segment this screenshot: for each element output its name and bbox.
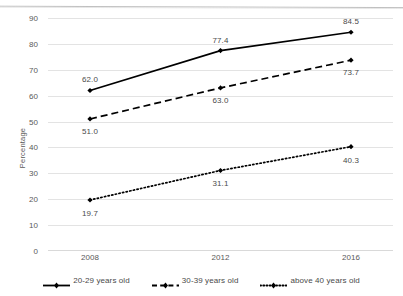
y-axis-tick-labels: 90 80 70 60 50 40 30 20 10 0 xyxy=(0,18,44,251)
legend-label: 20-29 years old xyxy=(73,276,130,285)
plot-area: 62.077.484.551.063.073.719.731.140.3 xyxy=(48,18,393,251)
x-tick-label: 2008 xyxy=(81,253,99,262)
y-tick-label: 50 xyxy=(29,117,38,126)
data-point-marker[interactable] xyxy=(218,85,223,90)
data-label: 31.1 xyxy=(213,179,229,188)
data-label: 84.5 xyxy=(343,17,359,26)
y-tick-label: 0 xyxy=(34,247,38,256)
series-line-3 xyxy=(90,147,351,200)
y-tick-label: 20 xyxy=(29,195,38,204)
legend-item-30-39[interactable]: 30-39 years old xyxy=(152,276,239,285)
legend-label: above 40 years old xyxy=(290,276,359,285)
data-point-marker[interactable] xyxy=(87,88,92,93)
y-tick-label: 10 xyxy=(29,221,38,230)
data-label: 19.7 xyxy=(82,208,98,217)
scan-artifact-line xyxy=(0,5,403,7)
legend-key-dashed-icon xyxy=(152,276,179,285)
data-label: 51.0 xyxy=(82,126,98,135)
data-point-marker[interactable] xyxy=(348,30,353,35)
data-point-marker[interactable] xyxy=(87,197,92,202)
legend-item-above-40[interactable]: above 40 years old xyxy=(260,276,359,285)
data-label: 77.4 xyxy=(213,35,229,44)
data-label: 63.0 xyxy=(213,95,229,104)
legend-label: 30-39 years old xyxy=(182,276,239,285)
data-point-marker[interactable] xyxy=(87,116,92,121)
data-label: 40.3 xyxy=(343,155,359,164)
scan-bleed-text xyxy=(122,0,124,6)
line-chart: Percentage 90 80 70 60 50 40 30 20 10 0 xyxy=(0,0,403,296)
data-label: 73.7 xyxy=(343,68,359,77)
legend-key-solid-icon xyxy=(43,276,70,285)
x-tick-label: 2012 xyxy=(212,253,230,262)
data-label: 62.0 xyxy=(82,75,98,84)
y-tick-label: 70 xyxy=(29,65,38,74)
y-tick-label: 90 xyxy=(29,14,38,23)
series-layer xyxy=(48,18,393,251)
data-point-marker[interactable] xyxy=(348,144,353,149)
chart-legend: 20-29 years old 30-39 years old above 40… xyxy=(0,272,403,288)
y-tick-label: 40 xyxy=(29,143,38,152)
y-tick-label: 80 xyxy=(29,39,38,48)
data-point-marker[interactable] xyxy=(348,58,353,63)
y-tick-label: 30 xyxy=(29,169,38,178)
x-axis-tick-labels: 2008 2012 2016 xyxy=(48,253,393,267)
data-point-marker[interactable] xyxy=(218,168,223,173)
legend-key-dotted-icon xyxy=(260,276,287,285)
x-tick-label: 2016 xyxy=(342,253,360,262)
legend-item-20-29[interactable]: 20-29 years old xyxy=(43,276,130,285)
y-tick-label: 60 xyxy=(29,91,38,100)
data-point-marker[interactable] xyxy=(218,48,223,53)
